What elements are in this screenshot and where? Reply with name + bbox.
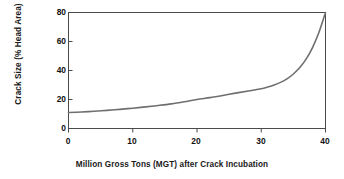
data-series-group [69, 13, 326, 113]
chart-figure: Crack Size (% Head Area) Million Gross T… [0, 0, 344, 179]
line-series-crack-growth [69, 13, 326, 113]
x-axis-ticks [69, 129, 326, 133]
plot-area [0, 0, 344, 179]
y-axis-ticks [69, 13, 73, 129]
